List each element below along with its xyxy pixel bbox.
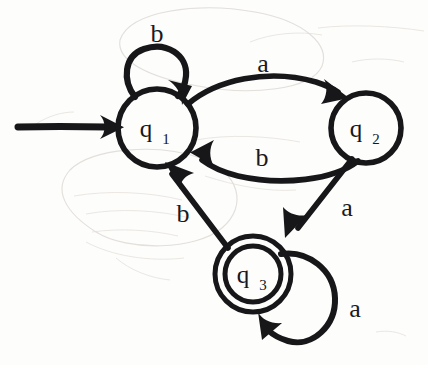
state-q1-circle	[118, 89, 196, 167]
edge-label-q1-q1-b: b	[151, 19, 164, 48]
edge-label-q2-q3-a: a	[341, 193, 353, 222]
state-q1-subscript: 1	[162, 131, 170, 147]
edge-label-q2-q1-b: b	[256, 143, 269, 172]
state-q2-subscript: 2	[372, 131, 380, 147]
state-q1-label: q	[140, 115, 153, 142]
edge-label-q3-q1-b: b	[177, 199, 190, 228]
automaton-diagram: q 1 q 2 q 3 b a b a b a	[0, 0, 428, 365]
state-q3-label: q	[237, 261, 250, 288]
automaton-canvas: q 1 q 2 q 3 b a b a b a	[0, 0, 428, 365]
state-q2-circle	[331, 93, 401, 163]
state-q2[interactable]: q 2	[331, 93, 401, 163]
edge-label-q3-q3-a: a	[349, 294, 361, 323]
transition-q2-q1-b	[190, 140, 358, 181]
edge-label-q1-q2-a: a	[257, 49, 269, 78]
state-q1[interactable]: q 1	[118, 89, 196, 167]
state-q3-inner-circle	[225, 246, 281, 302]
state-q3-subscript: 3	[259, 277, 267, 293]
start-arrow	[18, 115, 124, 139]
state-q2-label: q	[350, 115, 363, 142]
state-q3[interactable]: q 3	[215, 236, 291, 312]
